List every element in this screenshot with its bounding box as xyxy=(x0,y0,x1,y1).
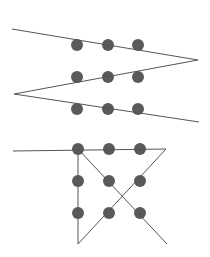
solution-path-line xyxy=(13,149,167,244)
dot xyxy=(103,175,115,187)
nine-dots-diagram xyxy=(0,0,210,257)
dot xyxy=(134,207,146,219)
dot xyxy=(132,71,144,83)
dot xyxy=(103,143,115,155)
triangle-solution xyxy=(13,143,167,244)
dot xyxy=(71,103,83,115)
dot xyxy=(103,207,115,219)
zigzag-solution xyxy=(12,29,199,122)
